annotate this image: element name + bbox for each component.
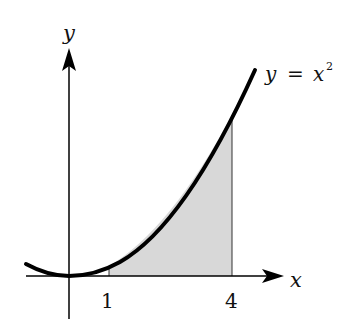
tick-label-4: 4 (225, 289, 238, 313)
function-label-equals: = (287, 62, 304, 86)
function-label-exponent: 2 (326, 60, 333, 73)
x-axis-label: x (290, 268, 302, 292)
y-axis-label: y (62, 21, 76, 45)
shaded-area-region (109, 115, 232, 276)
function-label-lhs: y (264, 62, 277, 86)
function-label: y = x 2 (264, 60, 333, 86)
function-label-base: x (313, 62, 324, 86)
parabola-area-diagram: y x 1 4 y = x 2 (0, 0, 357, 329)
tick-label-1: 1 (101, 289, 114, 313)
